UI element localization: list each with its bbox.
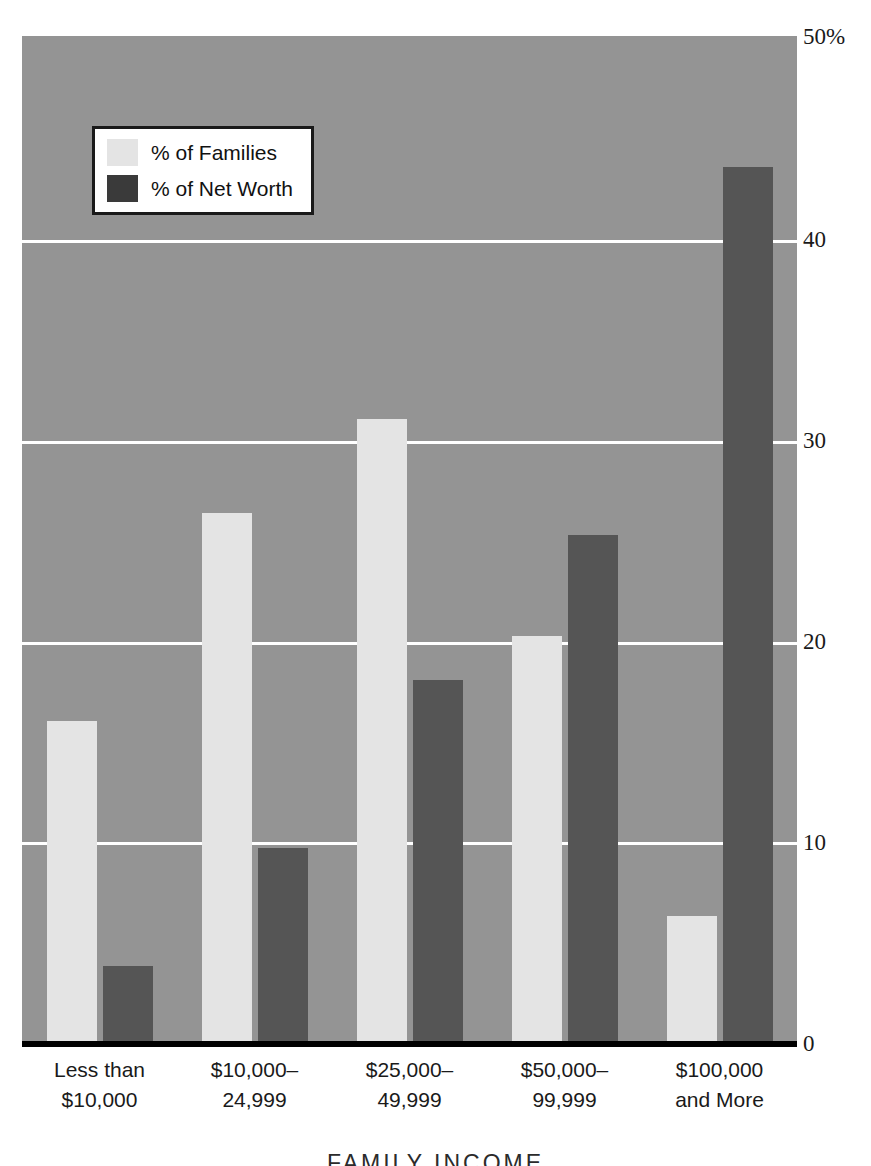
x-group-label-line1: $25,000–: [332, 1055, 487, 1085]
legend-item-families: % of Families: [107, 139, 293, 166]
x-group-label-line2: 49,999: [332, 1085, 487, 1115]
x-group-label-0: Less than$10,000: [22, 1055, 177, 1115]
plot-area: % of Families % of Net Worth: [22, 36, 797, 1043]
x-axis-title: FAMILY INCOME: [0, 1150, 871, 1166]
y-tick-20: 20: [803, 629, 826, 655]
y-tick-40: 40: [803, 227, 826, 253]
x-group-label-line2: 99,999: [487, 1085, 642, 1115]
x-group-label-line2: and More: [642, 1085, 797, 1115]
networth-swatch-icon: [107, 175, 138, 202]
y-tick-0: 0: [803, 1031, 815, 1057]
bar-networth-2: [413, 680, 463, 1043]
bar-networth-0: [103, 966, 153, 1043]
bar-networth-3: [568, 535, 618, 1043]
families-swatch-icon: [107, 139, 138, 166]
legend-label-networth: % of Net Worth: [151, 177, 293, 201]
y-axis: 50% 40 30 20 10 0: [803, 0, 871, 1166]
bar-networth-1: [258, 848, 308, 1043]
legend-label-families: % of Families: [151, 141, 277, 165]
bar-chart-figure: % of Families % of Net Worth 50% 40 30 2…: [0, 0, 871, 1166]
x-group-label-line1: $100,000: [642, 1055, 797, 1085]
x-group-label-2: $25,000–49,999: [332, 1055, 487, 1115]
x-group-label-line2: $10,000: [22, 1085, 177, 1115]
x-axis: Less than$10,000$10,000–24,999$25,000–49…: [22, 1055, 797, 1135]
x-group-label-1: $10,000–24,999: [177, 1055, 332, 1115]
bar-families-2: [357, 419, 407, 1043]
bar-families-0: [47, 721, 97, 1043]
x-group-label-line2: 24,999: [177, 1085, 332, 1115]
bar-families-3: [512, 636, 562, 1043]
x-group-label-4: $100,000and More: [642, 1055, 797, 1115]
x-axis-baseline: [22, 1041, 797, 1047]
legend: % of Families % of Net Worth: [92, 126, 314, 215]
x-group-label-line1: $50,000–: [487, 1055, 642, 1085]
x-group-label-line1: $10,000–: [177, 1055, 332, 1085]
bar-families-1: [202, 513, 252, 1043]
x-group-label-3: $50,000–99,999: [487, 1055, 642, 1115]
x-group-label-line1: Less than: [22, 1055, 177, 1085]
y-tick-10: 10: [803, 830, 826, 856]
y-tick-30: 30: [803, 428, 826, 454]
y-tick-50: 50%: [803, 24, 845, 50]
legend-item-networth: % of Net Worth: [107, 175, 293, 202]
bar-families-4: [667, 916, 717, 1043]
bar-networth-4: [723, 167, 773, 1043]
